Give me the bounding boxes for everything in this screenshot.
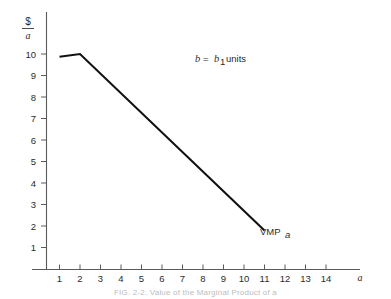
y-axis-tick-labels: 10 9 8 7 6 5 4 3 2 1 xyxy=(25,49,36,254)
figure-container: 10 9 8 7 6 5 4 3 2 1 1 2 3 4 5 6 7 8 9 1… xyxy=(0,0,391,299)
y-tick-label: 5 xyxy=(31,156,36,167)
y-tick-label: 2 xyxy=(31,221,36,232)
figure-caption: FIG. 2-2. Value of the Marginal Product … xyxy=(0,288,391,297)
x-tick-label: 4 xyxy=(118,273,123,284)
annotation-b-subscript: 1 xyxy=(220,56,225,67)
y-tick-label: 10 xyxy=(25,49,36,60)
annotation-b-level: b = b 1 units xyxy=(195,53,246,67)
x-axis-label: a xyxy=(358,272,363,283)
vmp-curve-label-main: VMP xyxy=(260,226,281,237)
y-tick-label: 9 xyxy=(31,70,36,81)
vmp-curve-label-subscript: a xyxy=(285,229,290,240)
x-axis-ticks xyxy=(60,265,327,270)
x-tick-label: 11 xyxy=(260,273,270,284)
annotation-b-symbol: b xyxy=(195,53,200,64)
y-tick-label: 6 xyxy=(31,135,36,146)
y-tick-label: 3 xyxy=(31,199,36,210)
x-tick-label: 1 xyxy=(57,273,62,284)
x-tick-label: 6 xyxy=(159,273,164,284)
annotation-units-word: units xyxy=(226,53,246,64)
y-axis-ticks xyxy=(41,54,47,248)
y-axis-label-numerator: $ xyxy=(25,16,31,27)
y-tick-label: 7 xyxy=(31,113,36,124)
x-tick-label: 7 xyxy=(180,273,185,284)
x-tick-label: 8 xyxy=(200,273,205,284)
y-axis-label-denominator: a xyxy=(26,30,31,41)
annotation-equals-sign: = xyxy=(203,53,209,64)
x-tick-label: 3 xyxy=(98,273,103,284)
x-tick-label: 5 xyxy=(139,273,144,284)
annotation-b-sub-symbol: b xyxy=(214,53,219,64)
vmp-curve xyxy=(60,54,265,231)
y-tick-label: 8 xyxy=(31,92,36,103)
x-axis-tick-labels: 1 2 3 4 5 6 7 8 9 10 11 12 13 14 xyxy=(57,273,331,284)
x-tick-label: 2 xyxy=(77,273,82,284)
vmp-curve-label: VMP a xyxy=(260,226,290,240)
x-tick-label: 12 xyxy=(280,273,291,284)
x-tick-label: 14 xyxy=(321,273,332,284)
x-tick-label: 10 xyxy=(239,273,250,284)
x-tick-label: 13 xyxy=(300,273,311,284)
chart-canvas: 10 9 8 7 6 5 4 3 2 1 1 2 3 4 5 6 7 8 9 1… xyxy=(0,0,391,299)
y-axis-label: $ a xyxy=(22,16,34,41)
y-tick-label: 4 xyxy=(31,178,36,189)
y-tick-label: 1 xyxy=(31,242,36,253)
x-tick-label: 9 xyxy=(221,273,226,284)
